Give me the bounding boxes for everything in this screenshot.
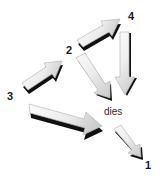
diagram-canvas: 4 2 3 1 dies — [0, 0, 160, 185]
arrow-down-right-icon — [115, 32, 137, 96]
arrow-from-label-2-icon — [76, 53, 112, 101]
arrow-to-label-1-icon — [114, 125, 143, 160]
arrow-graphics — [0, 0, 160, 185]
arrow-from-label-3-icon — [22, 61, 63, 94]
label-2: 2 — [66, 45, 72, 56]
arrow-to-label-4-icon — [77, 19, 121, 51]
label-1: 1 — [145, 160, 151, 171]
center-label-dies: dies — [104, 107, 122, 117]
arrow-main-right-icon — [29, 104, 103, 140]
label-4: 4 — [128, 11, 134, 22]
label-3: 3 — [7, 91, 13, 102]
